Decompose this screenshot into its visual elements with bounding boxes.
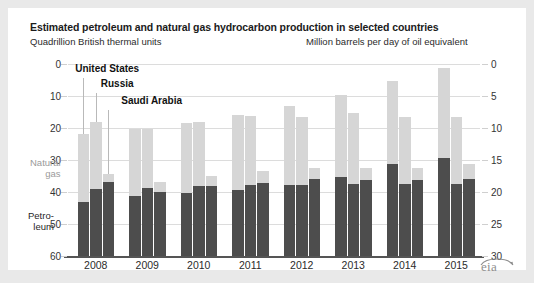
- bar-segment-natural-gas: [129, 129, 141, 197]
- y-axis-tick-mark-left: [61, 256, 67, 257]
- bar-segment-petroleum: [245, 185, 257, 256]
- bar-group-2009: [129, 64, 166, 256]
- x-axis-tick-label: 2012: [290, 259, 313, 271]
- bar-segment-natural-gas: [399, 117, 411, 185]
- annotation-united-states: United States: [75, 63, 139, 74]
- bar-segment-natural-gas: [90, 122, 102, 189]
- bar-segment-natural-gas: [348, 113, 360, 183]
- x-axis-tick-label: 2010: [187, 259, 210, 271]
- annotation-leader-line: [83, 78, 84, 134]
- bar-group-2012: [284, 64, 321, 256]
- bar-segment-petroleum: [181, 193, 193, 256]
- bar-group-2013: [335, 64, 372, 256]
- bar-united-states-2008[interactable]: [78, 134, 90, 256]
- y-axis-tick-mark-right: [482, 224, 488, 225]
- x-axis-tick-label: 2014: [393, 259, 416, 271]
- bar-segment-natural-gas: [463, 164, 475, 179]
- y-axis-tick-mark-right: [482, 160, 488, 161]
- left-axis-unit-label: Quadrillion British thermal units: [30, 36, 161, 47]
- bar-russia-2008[interactable]: [90, 122, 102, 256]
- y-axis-tick-label-left: 40: [35, 187, 61, 198]
- bar-segment-natural-gas: [438, 68, 450, 159]
- bar-segment-natural-gas: [451, 117, 463, 183]
- bar-segment-natural-gas: [193, 122, 205, 187]
- bar-segment-petroleum: [451, 184, 463, 256]
- bar-russia-2010[interactable]: [193, 122, 205, 256]
- bar-segment-petroleum: [438, 158, 450, 256]
- bar-segment-petroleum: [206, 186, 218, 256]
- bar-segment-petroleum: [360, 180, 372, 256]
- y-axis-tick-label-left: 20: [35, 123, 61, 134]
- legend-label-petroleum-line2: leum: [28, 221, 54, 232]
- bar-segment-petroleum: [154, 192, 166, 256]
- y-axis-tick-label-left: 0: [35, 59, 61, 70]
- bar-saudi-arabia-2012[interactable]: [309, 168, 321, 256]
- bar-saudi-arabia-2009[interactable]: [154, 182, 166, 256]
- bar-segment-petroleum: [463, 179, 475, 256]
- bar-saudi-arabia-2013[interactable]: [360, 168, 372, 256]
- bar-united-states-2013[interactable]: [335, 95, 347, 256]
- bar-segment-natural-gas: [335, 95, 347, 178]
- bar-united-states-2009[interactable]: [129, 129, 141, 256]
- bar-segment-petroleum: [296, 185, 308, 256]
- plot-area: 6030502540203015201010500200820092010201…: [68, 64, 480, 256]
- bar-united-states-2015[interactable]: [438, 68, 450, 256]
- bar-segment-petroleum: [103, 182, 115, 256]
- bar-segment-natural-gas: [142, 129, 154, 188]
- bar-united-states-2012[interactable]: [284, 106, 296, 256]
- chart-title: Estimated petroleum and natural gas hydr…: [30, 21, 439, 33]
- annotation-leader-line: [108, 110, 109, 174]
- bar-russia-2015[interactable]: [451, 117, 463, 256]
- y-axis-tick-label-right: 20: [491, 187, 517, 198]
- y-axis-tick-label-left: 10: [35, 91, 61, 102]
- x-axis-tick-label: 2015: [445, 259, 468, 271]
- bar-saudi-arabia-2011[interactable]: [257, 171, 269, 256]
- bar-segment-petroleum: [232, 190, 244, 256]
- y-axis-tick-label-right: 25: [491, 219, 517, 230]
- legend-label-natural-gas-line1: Natural: [30, 157, 61, 168]
- y-axis-tick-mark-right: [482, 128, 488, 129]
- bar-segment-petroleum: [399, 184, 411, 256]
- y-axis-tick-mark-left: [61, 224, 67, 225]
- bar-saudi-arabia-2015[interactable]: [463, 164, 475, 256]
- y-axis-tick-mark-right: [482, 96, 488, 97]
- bar-saudi-arabia-2008[interactable]: [103, 174, 115, 256]
- bar-russia-2012[interactable]: [296, 117, 308, 256]
- y-axis-tick-mark-right: [482, 192, 488, 193]
- bar-segment-natural-gas: [245, 116, 257, 186]
- bar-russia-2011[interactable]: [245, 116, 257, 256]
- bar-segment-natural-gas: [284, 106, 296, 185]
- bar-segment-petroleum: [78, 202, 90, 256]
- y-axis-tick-mark-right: [482, 64, 488, 65]
- right-axis-unit-label: Million barrels per day of oil equivalen…: [306, 36, 468, 47]
- bar-group-2010: [181, 64, 218, 256]
- bar-russia-2014[interactable]: [399, 117, 411, 256]
- bar-segment-natural-gas: [387, 81, 399, 165]
- bar-segment-natural-gas: [181, 123, 193, 192]
- eia-logo-text: eia: [481, 259, 497, 275]
- bar-segment-petroleum: [348, 184, 360, 256]
- bar-segment-natural-gas: [296, 117, 308, 184]
- bar-russia-2009[interactable]: [142, 129, 154, 256]
- y-axis-tick-mark-left: [61, 64, 67, 65]
- annotation-saudi-arabia: Saudi Arabia: [121, 95, 182, 106]
- bar-russia-2013[interactable]: [348, 113, 360, 256]
- bar-group-2014: [387, 64, 424, 256]
- bar-segment-natural-gas: [78, 134, 90, 201]
- bar-group-2015: [438, 64, 475, 256]
- y-axis-tick-label-right: 5: [491, 91, 517, 102]
- bar-united-states-2010[interactable]: [181, 123, 193, 256]
- bar-united-states-2011[interactable]: [232, 115, 244, 256]
- bar-group-2011: [232, 64, 269, 256]
- bar-segment-natural-gas: [232, 115, 244, 190]
- bar-segment-petroleum: [412, 180, 424, 256]
- bar-segment-petroleum: [142, 188, 154, 256]
- bar-saudi-arabia-2014[interactable]: [412, 168, 424, 256]
- bar-saudi-arabia-2010[interactable]: [206, 176, 218, 256]
- legend-label-natural-gas-line2: gas: [30, 168, 61, 179]
- chart-canvas: Estimated petroleum and natural gas hydr…: [8, 8, 526, 270]
- bar-united-states-2014[interactable]: [387, 81, 399, 256]
- bar-segment-natural-gas: [309, 168, 321, 180]
- bar-segment-petroleum: [257, 183, 269, 256]
- y-axis-tick-label-right: 15: [491, 155, 517, 166]
